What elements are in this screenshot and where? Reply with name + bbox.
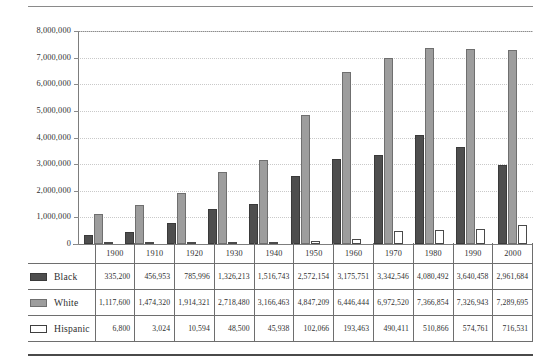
data-table-grid: 1900191019201930194019501960197019801990… [28,243,533,342]
y-axis-tick-label: 1,000,000 [1,212,71,221]
swatch-black-icon [30,273,47,281]
legend-cell-black: Black [28,264,95,290]
y-axis-tick-label: 6,000,000 [1,79,71,88]
bar-black-1950 [291,176,300,244]
table-cell-hispanic-1980: 510,866 [413,316,453,342]
table-cell-black-1900: 335,200 [95,264,135,290]
bar-group [326,31,367,244]
bar-hispanic-1990 [476,229,485,244]
plot-area [78,31,533,245]
bar-hispanic-2000 [518,225,527,244]
bar-white-1960 [342,72,351,244]
swatch-white-icon [30,299,47,307]
table-header-year-1940: 1940 [254,243,294,264]
bar-white-1990 [466,49,475,244]
header-corner-cell [28,243,95,264]
legend-label: White [54,297,78,308]
bar-white-1950 [301,115,310,244]
table-header-year-1910: 1910 [135,243,175,264]
table-cell-black-1930: 1,326,213 [214,264,254,290]
legend-label: Black [54,271,77,282]
bar-black-1930 [208,209,217,244]
table-cell-white-1980: 7,366,854 [413,290,453,316]
bar-white-1910 [135,205,144,244]
legend-entry: Hispanic [30,323,95,334]
table-cell-hispanic-1960: 193,463 [334,316,374,342]
table-cell-white-1910: 1,474,320 [135,290,175,316]
bar-black-1970 [374,155,383,244]
bar-chart: 01,000,0002,000,0003,000,0004,000,0005,0… [0,22,543,254]
table-cell-black-1940: 1,516,743 [254,264,294,290]
bar-group [202,31,243,244]
bar-white-2000 [508,50,517,244]
bar-black-1980 [415,135,424,244]
bar-group [243,31,284,244]
table-cell-white-1960: 6,446,444 [334,290,374,316]
bar-group [161,31,202,244]
bar-white-1940 [259,160,268,244]
bar-black-2000 [498,165,507,244]
table-cell-hispanic-1930: 48,500 [214,316,254,342]
bar-black-1960 [332,159,341,244]
table-header-year-1920: 1920 [175,243,215,264]
table-row: Hispanic6,8003,02410,59448,50045,938102,… [28,316,533,342]
table-cell-white-1950: 4,847,209 [294,290,334,316]
table-cell-black-1910: 456,953 [135,264,175,290]
bar-group [78,31,119,244]
table-header-year-1930: 1930 [214,243,254,264]
table-header-row: 1900191019201930194019501960197019801990… [28,243,533,264]
bar-group [285,31,326,244]
table-cell-black-1950: 2,572,154 [294,264,334,290]
data-table: 1900191019201930194019501960197019801990… [28,243,533,338]
table-cell-white-1970: 6,972,520 [374,290,414,316]
table-cell-hispanic-1940: 45,938 [254,316,294,342]
bar-group [368,31,409,244]
table-cell-white-1920: 1,914,321 [175,290,215,316]
table-header-year-1960: 1960 [334,243,374,264]
table-header-year-1970: 1970 [374,243,414,264]
table-cell-hispanic-2000: 716,531 [493,316,533,342]
bar-hispanic-1980 [435,230,444,244]
table-header-year-1900: 1900 [95,243,135,264]
bar-black-1990 [456,147,465,244]
table-cell-hispanic-1970: 490,411 [374,316,414,342]
table-header-year-1990: 1990 [453,243,493,264]
bar-group [119,31,160,244]
table-cell-hispanic-1990: 574,761 [453,316,493,342]
table-cell-hispanic-1920: 10,594 [175,316,215,342]
table-cell-white-2000: 7,289,695 [493,290,533,316]
legend-entry: White [30,297,95,308]
table-row: Black335,200456,953785,9961,326,2131,516… [28,264,533,290]
y-axis-tick-label: 3,000,000 [1,159,71,168]
bar-black-1940 [249,204,258,244]
table-cell-white-1990: 7,326,943 [453,290,493,316]
y-axis-tick-label: 8,000,000 [1,26,71,35]
table-header-year-2000: 2000 [493,243,533,264]
bar-white-1920 [177,193,186,244]
y-axis-tick-label: 5,000,000 [1,106,71,115]
table-cell-black-1920: 785,996 [175,264,215,290]
y-axis-labels: 01,000,0002,000,0003,000,0004,000,0005,0… [0,31,73,245]
bar-white-1930 [218,172,227,244]
figure-population-by-group: 01,000,0002,000,0003,000,0004,000,0005,0… [0,0,543,361]
legend-cell-hispanic: Hispanic [28,316,95,342]
data-table-body: 1900191019201930194019501960197019801990… [28,243,533,342]
bar-black-1920 [167,223,176,244]
table-row: White1,117,6001,474,3201,914,3212,718,48… [28,290,533,316]
table-cell-hispanic-1900: 6,800 [95,316,135,342]
bar-group [409,31,450,244]
bar-white-1900 [94,214,103,244]
table-cell-hispanic-1950: 102,066 [294,316,334,342]
table-cell-black-1970: 3,342,546 [374,264,414,290]
table-header-year-1950: 1950 [294,243,334,264]
bar-white-1980 [425,48,434,244]
table-cell-black-2000: 2,961,684 [493,264,533,290]
bar-group [450,31,491,244]
legend-label: Hispanic [54,323,90,334]
table-cell-white-1940: 3,166,463 [254,290,294,316]
y-axis-tick-label: 7,000,000 [1,53,71,62]
table-cell-hispanic-1910: 3,024 [135,316,175,342]
table-header-year-1980: 1980 [413,243,453,264]
table-cell-black-1960: 3,175,751 [334,264,374,290]
table-cell-white-1900: 1,117,600 [95,290,135,316]
